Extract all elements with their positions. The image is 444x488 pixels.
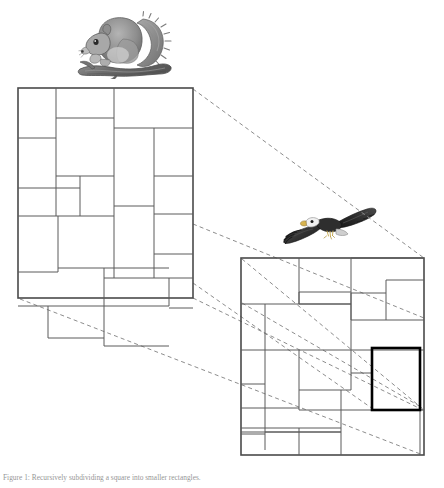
child-square-tiles — [241, 258, 424, 455]
figure-root: Figure 1: Recursively subdividing a squa… — [0, 0, 444, 488]
selected-rectangle-highlight[interactable] — [372, 348, 420, 410]
child-square-panel — [0, 0, 444, 488]
child-square-frame — [241, 258, 424, 455]
figure-caption: Figure 1: Recursively subdividing a squa… — [3, 473, 441, 482]
